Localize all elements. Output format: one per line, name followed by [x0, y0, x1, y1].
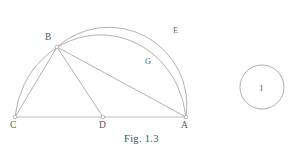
vertex-label-B: B — [45, 33, 52, 43]
region-label-G: G — [145, 57, 151, 66]
vertex-label-A: A — [181, 121, 188, 131]
segment-BD — [57, 47, 103, 117]
vertex-marker-A — [184, 115, 188, 119]
vertex-marker-B — [55, 45, 59, 49]
inner-arc-BGA — [57, 27, 187, 117]
figure-caption: Fig. 1.3 — [124, 133, 159, 144]
figure-container: C D A B E G I Fig. 1.3 — [0, 0, 296, 156]
vertex-label-D: D — [99, 121, 106, 131]
vertex-label-C: C — [10, 121, 17, 131]
region-label-E: E — [173, 26, 178, 35]
segment-BA — [57, 47, 186, 117]
region-label-I: I — [260, 84, 263, 93]
vertex-marker-D — [101, 115, 105, 119]
vertex-marker-C — [13, 115, 17, 119]
outer-arc-CBEA — [15, 35, 186, 117]
segment-CB — [15, 47, 57, 117]
